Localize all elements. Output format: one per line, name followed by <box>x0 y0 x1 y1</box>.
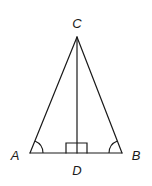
segment-ac <box>30 37 77 153</box>
label-c: C <box>72 16 82 31</box>
angle-arc-b <box>109 141 117 153</box>
angle-arc-a <box>35 141 43 153</box>
label-d: D <box>72 163 81 178</box>
label-b: B <box>132 148 141 163</box>
label-a: A <box>10 148 20 163</box>
segment-bc <box>77 37 122 153</box>
isosceles-triangle-diagram: C A B D <box>0 0 152 186</box>
